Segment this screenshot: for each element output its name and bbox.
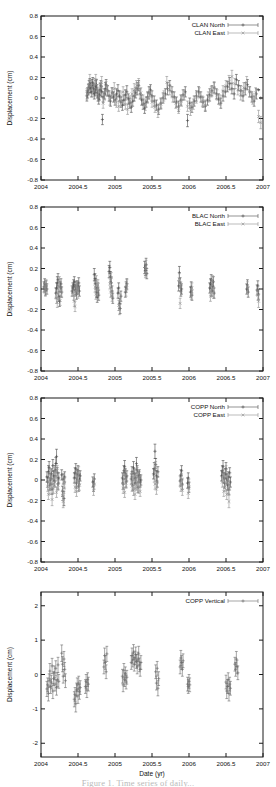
y-tick-label: 0 [35,94,39,101]
y-axis-label: Displacement (cm) [6,453,14,508]
legend-marker [228,214,258,218]
series-copp-vertical [45,645,239,712]
y-tick-label: 0.4 [29,53,38,60]
y-tick-label: 0.4 [29,244,38,251]
y-tick-label: -0.8 [27,367,38,374]
legend-marker [228,222,258,226]
series-clan-east [85,70,262,128]
y-tick-label: 0.8 [29,12,38,19]
y-tick-label: 0.8 [29,203,38,210]
x-tick-label: 2005.5 [143,183,162,190]
y-tick-label: 0 [35,476,39,483]
x-tick-label: 2004.5 [69,183,88,190]
x-tick-label: 2006.5 [217,374,236,381]
x-tick-label: 2004 [34,183,48,190]
y-tick-label: -0.2 [27,306,38,313]
y-axis-label: Displacement (cm) [6,647,14,702]
y-tick-label: 0.2 [29,74,38,81]
y-tick-label: -0.2 [27,497,38,504]
series-blac-north [42,258,260,313]
legend-label: COPP Vertical [186,597,225,604]
legend-label: BLAC North [192,212,226,219]
y-tick-label: 0.2 [29,456,38,463]
x-tick-label: 2005 [108,760,122,767]
y-axis-label: Displacement (cm) [6,262,14,317]
legend-marker [228,599,258,603]
x-tick-label: 2006.5 [217,760,236,767]
series-copp-north [45,444,232,506]
x-tick-label: 2006.5 [217,183,236,190]
y-tick-label: -0.8 [27,176,38,183]
series-copp-east [46,462,231,508]
legend-label: CLAN North [192,21,226,28]
x-tick-label: 2005 [108,565,122,572]
x-tick-label: 2006.5 [217,565,236,572]
figure-container: 20042004.520052005.520062006.520070.80.6… [0,0,276,787]
series-blac-east [43,260,260,314]
legend-marker [228,413,258,417]
legend-label: BLAC East [195,220,226,227]
x-axis-label: Date (yr) [139,770,165,778]
x-tick-label: 2007 [256,760,270,767]
x-tick-label: 2005 [108,183,122,190]
y-tick-label: -0.8 [27,558,38,565]
y-tick-label: -0.6 [27,347,38,354]
y-tick-label: 0.6 [29,415,38,422]
x-tick-label: 2006 [182,183,196,190]
legend-marker [228,405,258,409]
figure-caption: Figure 1. Time series of daily... [0,778,276,787]
x-tick-label: 2005.5 [143,565,162,572]
legend-marker [228,23,258,27]
y-tick-label: 0 [35,285,39,292]
y-tick-label: -0.6 [27,538,38,545]
x-tick-label: 2006 [182,760,196,767]
y-tick-label: 0.6 [29,33,38,40]
y-tick-label: 0.2 [29,265,38,272]
x-tick-label: 2007 [256,183,270,190]
y-tick-label: -0.4 [27,135,38,142]
x-tick-label: 2004 [34,565,48,572]
legend-marker [228,31,258,35]
y-tick-label: -0.4 [27,517,38,524]
y-tick-label: 1 [35,636,39,643]
y-tick-label: -0.4 [27,326,38,333]
x-tick-label: 2007 [256,374,270,381]
y-tick-label: 2 [35,602,39,609]
x-tick-label: 2004.5 [69,374,88,381]
x-tick-label: 2005.5 [143,760,162,767]
x-tick-label: 2004 [34,760,48,767]
y-tick-label: -2 [32,739,38,746]
y-tick-label: -0.6 [27,156,38,163]
y-tick-label: -0.2 [27,115,38,122]
y-tick-label: 0 [35,671,39,678]
x-tick-label: 2005.5 [143,374,162,381]
y-tick-label: 0.6 [29,224,38,231]
x-tick-label: 2005 [108,374,122,381]
x-tick-label: 2004 [34,374,48,381]
y-tick-label: -1 [32,705,38,712]
series-clan-north [85,74,262,126]
y-axis-label: Displacement (cm) [6,71,14,126]
x-tick-label: 2006 [182,565,196,572]
legend-label: CLAN East [194,29,225,36]
y-tick-label: 0.4 [29,435,38,442]
x-tick-label: 2007 [256,565,270,572]
y-tick-label: 0.8 [29,394,38,401]
legend-label: COPP North [191,403,226,410]
legend-label: COPP East [193,411,225,418]
x-tick-label: 2004.5 [69,760,88,767]
x-tick-label: 2006 [182,374,196,381]
x-tick-label: 2004.5 [69,565,88,572]
